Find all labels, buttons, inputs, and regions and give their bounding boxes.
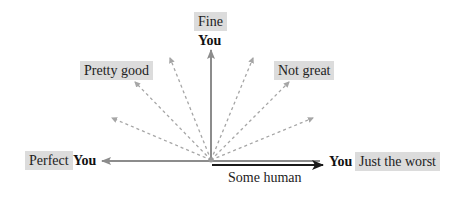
label-fine: Fine (194, 12, 227, 31)
baseline-label: Some human (228, 170, 302, 186)
you-label-left: You (73, 153, 96, 169)
label-pretty-good: Pretty good (80, 61, 153, 80)
label-just-the-worst: Just the worst (355, 152, 440, 171)
label-not-great: Not great (274, 61, 334, 80)
origin-dot (209, 158, 214, 163)
you-label-top: You (198, 33, 221, 49)
dashed-ray (135, 82, 211, 160)
dashed-ray (211, 82, 289, 160)
you-label-right: You (329, 154, 352, 170)
label-perfect: Perfect (25, 151, 73, 170)
